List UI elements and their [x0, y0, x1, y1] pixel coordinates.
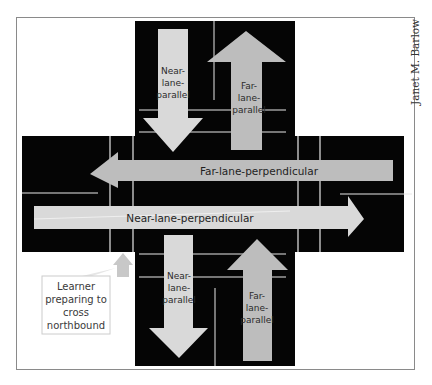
- label-far-perpendicular: Far-lane-perpendicular: [200, 165, 319, 177]
- callout-pointer: [82, 268, 116, 276]
- label-south-far-line2: lane-: [246, 303, 269, 313]
- label-south-near-line3: parallel: [162, 295, 195, 305]
- label-north-near-line1: Near-: [161, 66, 185, 76]
- label-north-far-line2: lane-: [238, 93, 261, 103]
- intersection-diagram: Near- lane- parallel Far- lane- parallel…: [0, 0, 432, 385]
- label-north-far-line3: parallel: [232, 105, 265, 115]
- label-south-near-line2: lane-: [168, 283, 191, 293]
- author-credit: Janet M. Barlow: [404, 14, 426, 110]
- label-north-near-line3: parallel: [156, 90, 189, 100]
- label-north-near-line2: lane-: [162, 78, 185, 88]
- label-south-far-line3: parallel: [240, 315, 273, 325]
- label-south-far-line1: Far-: [249, 291, 265, 301]
- callout-line3: cross: [63, 307, 89, 318]
- callout-line2: preparing to: [45, 294, 107, 305]
- label-south-near-line1: Near-: [167, 271, 191, 281]
- callout-line4: northbound: [47, 320, 105, 331]
- label-north-far-line1: Far-: [241, 81, 257, 91]
- label-near-perpendicular: Near-lane-perpendicular: [126, 212, 254, 224]
- learner-position-marker: [113, 253, 133, 277]
- author-credit-text: Janet M. Barlow: [409, 19, 421, 105]
- callout-line1: Learner: [57, 281, 96, 292]
